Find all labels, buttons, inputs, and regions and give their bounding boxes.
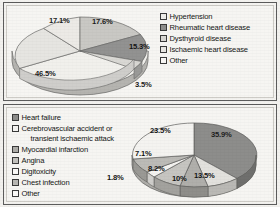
legend-item-chest-infection[interactable]: Chest infection: [12, 178, 152, 188]
bottom-chart-legend: Heart failure Cerebrovascular accident o…: [12, 113, 152, 200]
legend-item-digitoxicity[interactable]: Digitoxicity: [12, 167, 152, 177]
legend-item-hypertension[interactable]: Hypertension: [160, 12, 277, 22]
legend-item-ischaemic[interactable]: Ischaemic heart disease: [160, 45, 277, 55]
legend-swatch-icon-other-bottom: [12, 190, 19, 197]
legend-item-other-bottom[interactable]: Other: [12, 189, 152, 199]
legend-label-other-top: Other: [170, 56, 188, 66]
legend-swatch-icon-other-top: [160, 57, 167, 64]
legend-item-other-top[interactable]: Other: [160, 56, 277, 66]
legend-item-cva[interactable]: Cerebrovascular accident or transient is…: [12, 124, 152, 143]
legend-item-angina[interactable]: Angina: [12, 156, 152, 166]
legend-swatch-icon-mi: [12, 146, 19, 153]
top-chart-legend: Hypertension Rheumatic heart disease Dys…: [160, 12, 277, 67]
top-label-other: 17.1%: [49, 16, 70, 25]
legend-swatch-icon-rheumatic: [160, 24, 167, 31]
legend-item-dysthyroid[interactable]: Dysthyroid disease: [160, 34, 277, 44]
legend-label-angina: Angina: [22, 156, 45, 166]
legend-label-cva-line1: Cerebrovascular accident or: [22, 124, 113, 133]
top-label-ischaemic: 46.5%: [35, 69, 56, 78]
legend-swatch-icon-cva: [12, 125, 19, 132]
legend-label-chest-infection: Chest infection: [22, 178, 70, 188]
legend-label-hypertension: Hypertension: [170, 12, 213, 22]
legend-swatch-icon-hypertension: [160, 13, 167, 20]
legend-item-mi[interactable]: Myocardial infarction: [12, 145, 152, 155]
bottom-chart-panel: 35.9% 13.5% 10% 8.2% 1.8% 7.1% 23.5% Hea…: [3, 104, 277, 205]
legend-label-mi: Myocardial infarction: [22, 145, 89, 155]
top-chart-panel: 17.1% 17.6% 15.3% 3.5% 46.5% Hypertensio…: [3, 2, 277, 101]
top-label-hypertension: 17.6%: [92, 17, 113, 26]
bottom-label-mi: 10%: [172, 174, 187, 183]
legend-item-heart-failure[interactable]: Heart failure: [12, 113, 152, 123]
bottom-label-other: 23.5%: [150, 126, 171, 135]
bottom-label-heart-failure: 35.9%: [211, 130, 232, 139]
bottom-wall-mi: [180, 186, 208, 197]
legend-swatch-icon-dysthyroid: [160, 35, 167, 42]
legend-label-dysthyroid: Dysthyroid disease: [170, 34, 231, 44]
top-label-dysthyroid: 3.5%: [135, 80, 152, 89]
legend-label-rheumatic: Rheumatic heart disease: [170, 23, 251, 33]
legend-label-digitoxicity: Digitoxicity: [22, 167, 57, 177]
legend-swatch-icon-chest-infection: [12, 179, 19, 186]
legend-label-cva-line2: transient ischaemic attack: [22, 134, 114, 144]
legend-swatch-icon-heart-failure: [12, 114, 19, 121]
legend-label-cva: Cerebrovascular accident or transient is…: [22, 124, 114, 143]
legend-label-other-bottom: Other: [22, 189, 40, 199]
legend-swatch-icon-angina: [12, 157, 19, 164]
top-label-rheumatic: 15.3%: [129, 42, 150, 51]
legend-swatch-icon-ischaemic: [160, 46, 167, 53]
legend-item-rheumatic[interactable]: Rheumatic heart disease: [160, 23, 277, 33]
bottom-label-cva: 13.5%: [194, 171, 215, 180]
legend-label-heart-failure: Heart failure: [22, 113, 61, 123]
legend-swatch-icon-digitoxicity: [12, 168, 19, 175]
legend-label-ischaemic: Ischaemic heart disease: [170, 45, 248, 55]
figure-container: 17.1% 17.6% 15.3% 3.5% 46.5% Hypertensio…: [0, 0, 280, 207]
